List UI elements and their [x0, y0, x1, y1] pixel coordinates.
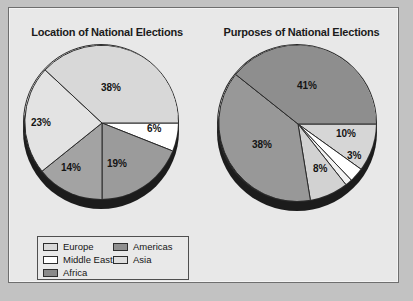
legend-label-africa: Africa	[63, 268, 87, 278]
figure-canvas: Location of National Elections	[0, 0, 413, 301]
legend-item-africa[interactable]: Africa	[43, 267, 113, 279]
figure-frame: Location of National Elections	[8, 7, 399, 283]
left-label-asia: 23%	[31, 117, 51, 128]
right-label-general-elections: 8%	[313, 163, 327, 174]
swatch-africa-icon	[43, 269, 58, 277]
right-chart-title: Purposes of National Elections	[205, 26, 398, 38]
left-pie-chart: 38% 6% 19% 14% 23%	[23, 44, 191, 209]
left-chart-panel: Location of National Elections	[9, 8, 205, 282]
right-label-legislatures: 38%	[252, 139, 272, 150]
left-legend: Europe Americas Middle East Asia	[37, 236, 189, 280]
right-label-parliamentary: 41%	[297, 80, 317, 91]
left-label-europe: 38%	[101, 82, 121, 93]
swatch-middle-east-icon	[43, 256, 58, 264]
right-label-referenda: 10%	[336, 128, 356, 139]
swatch-europe-icon	[43, 243, 58, 251]
legend-label-middle-east: Middle East	[63, 255, 113, 265]
legend-item-europe[interactable]: Europe	[43, 241, 113, 253]
right-pie-face	[217, 44, 377, 202]
left-chart-title: Location of National Elections	[9, 26, 205, 38]
swatch-asia-icon	[113, 256, 128, 264]
right-label-presidential: 3%	[347, 150, 361, 161]
swatch-americas-icon	[113, 243, 128, 251]
right-pie-svg	[218, 45, 377, 202]
legend-item-asia[interactable]: Asia	[113, 254, 183, 266]
legend-label-asia: Asia	[133, 255, 151, 265]
right-pie-chart: 41% 10% 3% 8% 38%	[217, 44, 387, 211]
left-label-africa: 19%	[107, 158, 127, 169]
legend-item-middle-east[interactable]: Middle East	[43, 254, 113, 266]
right-chart-panel: Purposes of National Elections	[205, 8, 398, 282]
legend-label-americas: Americas	[133, 242, 173, 252]
legend-label-europe: Europe	[63, 242, 94, 252]
left-label-middle-east: 6%	[147, 123, 161, 134]
legend-item-americas[interactable]: Americas	[113, 241, 183, 253]
left-label-americas: 14%	[61, 162, 81, 173]
